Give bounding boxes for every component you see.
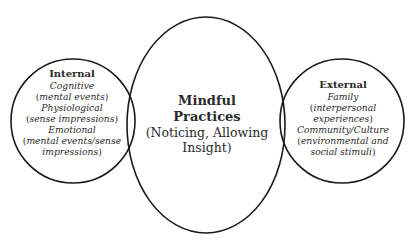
emotional-label: Emotional [13, 124, 131, 135]
emotional-detail-cont: impressions) [13, 146, 131, 157]
family-label: Family [284, 91, 402, 102]
cognitive-detail: (mental events) [13, 91, 131, 102]
external-text-block: External Family (interpersonal experienc… [284, 79, 402, 157]
emotional-detail: (mental events/sense [13, 135, 131, 146]
community-detail-cont: social stimuli) [284, 146, 402, 157]
mindful-title-line2: Practices [132, 109, 282, 125]
community-label: Community/Culture [284, 124, 402, 135]
internal-title: Internal [13, 68, 131, 80]
internal-text-block: Internal Cognitive (mental events) Physi… [13, 68, 131, 157]
physiological-label: Physiological [13, 102, 131, 113]
external-title: External [284, 79, 402, 91]
mindful-title-line1: Mindful [132, 93, 282, 109]
mindful-subtitle-line2: Insight) [132, 140, 282, 155]
cognitive-label: Cognitive [13, 80, 131, 91]
mindful-subtitle-line1: (Noticing, Allowing [132, 125, 282, 140]
family-detail: (interpersonal [284, 102, 402, 113]
family-detail-cont: experiences) [284, 113, 402, 124]
physiological-detail: (sense impressions) [13, 113, 131, 124]
community-detail: (environmental and [284, 135, 402, 146]
mindful-practices-text-block: Mindful Practices (Noticing, Allowing In… [132, 93, 282, 155]
